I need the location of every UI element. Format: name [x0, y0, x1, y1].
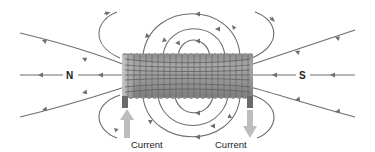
right-terminal	[247, 96, 253, 108]
solenoid-diagram: N S Current Current	[0, 0, 375, 152]
current-arrow-right-down-icon	[243, 110, 257, 138]
field-line-top-arch-inner	[178, 40, 210, 55]
field-line-top-arch-middle	[163, 29, 225, 55]
field-line-top-left-loop	[99, 12, 120, 58]
field-line-bottom-right-loop	[252, 95, 274, 138]
field-line-bottom-arch-inner	[175, 97, 213, 113]
south-pole-label: S	[299, 70, 306, 81]
field-line-bottom-arch-middle	[158, 97, 228, 126]
field-line-left-lower	[20, 87, 125, 117]
north-pole-label: N	[66, 70, 73, 81]
field-line-right-upper	[250, 30, 355, 65]
current-arrow-left-up-icon	[120, 109, 134, 138]
current-label-right: Current	[215, 139, 247, 150]
solenoid-coil	[122, 53, 253, 99]
field-line-bottom-arch-outer	[143, 97, 240, 137]
field-line-top-arch-outer	[143, 14, 240, 55]
coil-windings	[128, 53, 248, 98]
current-label-left: Current	[131, 139, 163, 150]
left-terminal	[122, 96, 128, 108]
field-line-top-right-loop	[252, 12, 274, 58]
field-line-bottom-left-loop	[99, 95, 120, 138]
field-line-left-upper	[20, 33, 125, 65]
